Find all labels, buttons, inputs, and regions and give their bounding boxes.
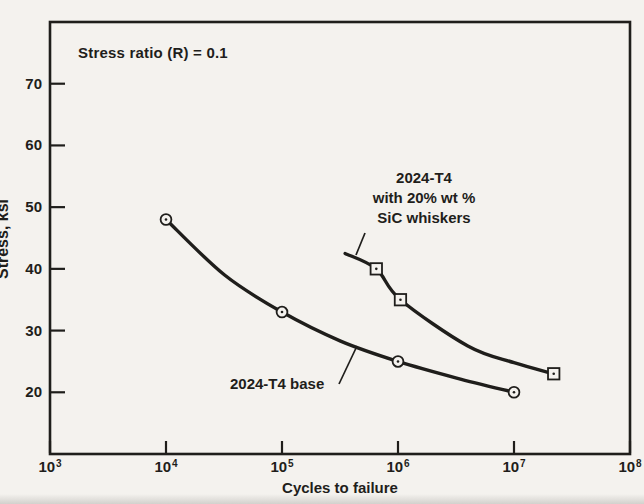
data-marker-dot	[552, 372, 555, 375]
series-label-line: SiC whiskers	[334, 208, 514, 228]
x-tick-label: 107	[492, 457, 536, 475]
plot-frame	[50, 22, 630, 454]
y-tick-label: 30	[10, 322, 42, 339]
series-label-base: 2024-T4 base	[230, 375, 324, 392]
stress-ratio-annotation: Stress ratio (R) = 0.1	[78, 44, 228, 61]
leader-line-base	[339, 346, 357, 384]
fatigue-sn-chart: Stress ratio (R) = 0.1 2024-T4 with 20% …	[0, 0, 644, 504]
scan-shadow	[0, 494, 644, 504]
y-tick-label: 40	[10, 260, 42, 277]
data-marker-dot	[399, 298, 402, 301]
series-label-line: with 20% wt %	[334, 188, 514, 208]
x-tick-label: 105	[260, 457, 304, 475]
y-tick-label: 20	[10, 383, 42, 400]
x-tick-label: 106	[376, 457, 420, 475]
leader-line-whiskers	[356, 233, 365, 255]
x-tick-label: 103	[28, 457, 72, 475]
series-label-line: 2024-T4	[334, 168, 514, 188]
x-tick-label: 108	[608, 457, 644, 475]
series-label-sic-whiskers: 2024-T4 with 20% wt % SiC whiskers	[334, 168, 514, 228]
data-marker-dot	[165, 218, 168, 221]
y-tick-label: 60	[10, 136, 42, 153]
data-marker-dot	[397, 360, 400, 363]
y-tick-label: 70	[10, 75, 42, 92]
data-marker-dot	[281, 311, 284, 314]
series-curve-0	[166, 219, 514, 392]
data-marker-dot	[375, 268, 378, 271]
data-marker-dot	[513, 391, 516, 394]
y-axis-title: Stress, ksi	[0, 179, 12, 299]
y-tick-label: 50	[10, 198, 42, 215]
x-tick-label: 104	[144, 457, 188, 475]
chart-canvas	[0, 0, 644, 504]
